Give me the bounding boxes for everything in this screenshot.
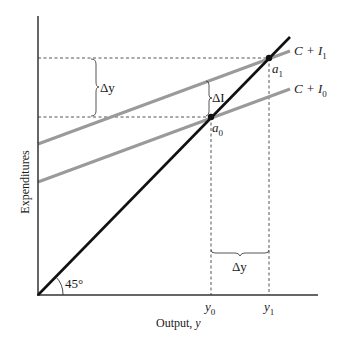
- line-c-plus-i0: [38, 89, 290, 182]
- point-a1-label: a1: [272, 61, 283, 79]
- y-axis-title: Expenditures: [18, 150, 32, 214]
- x-axis-title: Output, y: [156, 316, 201, 330]
- angle-arc-45: [56, 277, 63, 295]
- tick-label-y1: y1: [262, 299, 274, 317]
- line-c-plus-i1: [38, 51, 290, 144]
- label-c-plus-i0: C + I0: [294, 81, 327, 99]
- keynesian-cross-diagram: 45° a0 a1 C + I1 C + I0 Δy ΔI Δy y0 y1 O…: [0, 0, 340, 344]
- tick-label-y0: y0: [203, 299, 216, 317]
- label-delta-i: ΔI: [212, 90, 225, 105]
- brace-delta-y-vertical: [91, 59, 99, 116]
- line-45-degree: [38, 37, 290, 295]
- point-a0-label: a0: [212, 120, 224, 138]
- label-c-plus-i1: C + I1: [294, 43, 327, 61]
- label-delta-y-vertical: Δy: [100, 80, 115, 95]
- angle-label-45: 45°: [65, 276, 83, 291]
- label-delta-y-horizontal: Δy: [232, 259, 247, 274]
- brace-delta-y-horizontal: [211, 250, 269, 256]
